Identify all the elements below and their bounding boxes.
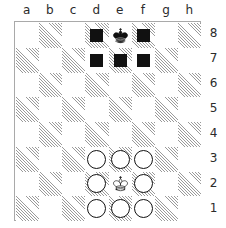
square-e8[interactable]: [109, 23, 132, 48]
square-c6[interactable]: [62, 73, 85, 98]
square-g7[interactable]: [155, 48, 178, 73]
file-label-h: h: [178, 2, 201, 19]
square-h7[interactable]: [178, 48, 201, 73]
rank-label-3: 3: [203, 145, 224, 170]
square-c8[interactable]: [62, 23, 85, 48]
square-h6[interactable]: [178, 73, 201, 98]
black-king-icon: [109, 23, 132, 48]
square-d6[interactable]: [85, 73, 108, 98]
white-circle-marker-icon[interactable]: [111, 150, 130, 169]
white-king-icon: [109, 172, 132, 197]
square-a2[interactable]: [16, 172, 39, 197]
rank-label-6: 6: [203, 71, 224, 96]
file-label-row: abcdefgh: [15, 2, 201, 19]
square-f6[interactable]: [132, 73, 155, 98]
square-d8[interactable]: [85, 23, 108, 48]
square-a7[interactable]: [16, 48, 39, 73]
square-f5[interactable]: [132, 97, 155, 122]
square-d1[interactable]: [85, 196, 108, 221]
square-b8[interactable]: [39, 23, 62, 48]
square-a5[interactable]: [16, 97, 39, 122]
square-e6[interactable]: [109, 73, 132, 98]
rank-label-column: 87654321: [203, 21, 224, 220]
square-g2[interactable]: [155, 172, 178, 197]
square-g3[interactable]: [155, 147, 178, 172]
black-square-marker-icon[interactable]: [137, 54, 150, 67]
square-h2[interactable]: [178, 172, 201, 197]
white-circle-marker-icon[interactable]: [111, 199, 130, 218]
black-square-marker-icon[interactable]: [90, 29, 103, 42]
square-b7[interactable]: [39, 48, 62, 73]
square-d3[interactable]: [85, 147, 108, 172]
rank-label-5: 5: [203, 96, 224, 121]
square-a6[interactable]: [16, 73, 39, 98]
square-g4[interactable]: [155, 122, 178, 147]
square-f7[interactable]: [132, 48, 155, 73]
square-b4[interactable]: [39, 122, 62, 147]
rank-label-7: 7: [203, 46, 224, 71]
square-b5[interactable]: [39, 97, 62, 122]
square-d7[interactable]: [85, 48, 108, 73]
square-b2[interactable]: [39, 172, 62, 197]
square-c7[interactable]: [62, 48, 85, 73]
file-label-b: b: [38, 2, 61, 19]
file-label-d: d: [85, 2, 108, 19]
square-c3[interactable]: [62, 147, 85, 172]
square-a1[interactable]: [16, 196, 39, 221]
black-square-marker-icon[interactable]: [114, 54, 127, 67]
square-c2[interactable]: [62, 172, 85, 197]
square-a8[interactable]: [16, 23, 39, 48]
chess-board[interactable]: [14, 21, 201, 221]
square-g8[interactable]: [155, 23, 178, 48]
square-h5[interactable]: [178, 97, 201, 122]
file-label-e: e: [108, 2, 131, 19]
white-circle-marker-icon[interactable]: [87, 199, 106, 218]
white-circle-marker-icon[interactable]: [134, 150, 153, 169]
black-square-marker-icon[interactable]: [90, 54, 103, 67]
square-e5[interactable]: [109, 97, 132, 122]
square-f8[interactable]: [132, 23, 155, 48]
rank-label-1: 1: [203, 195, 224, 220]
square-e2[interactable]: [109, 172, 132, 197]
square-c5[interactable]: [62, 97, 85, 122]
square-b1[interactable]: [39, 196, 62, 221]
square-c1[interactable]: [62, 196, 85, 221]
square-e4[interactable]: [109, 122, 132, 147]
square-f3[interactable]: [132, 147, 155, 172]
file-label-c: c: [62, 2, 85, 19]
square-b6[interactable]: [39, 73, 62, 98]
file-label-f: f: [131, 2, 154, 19]
rank-label-2: 2: [203, 170, 224, 195]
square-e1[interactable]: [109, 196, 132, 221]
square-g5[interactable]: [155, 97, 178, 122]
file-label-a: a: [15, 2, 38, 19]
square-e7[interactable]: [109, 48, 132, 73]
square-c4[interactable]: [62, 122, 85, 147]
rank-label-4: 4: [203, 121, 224, 146]
square-g6[interactable]: [155, 73, 178, 98]
square-b3[interactable]: [39, 147, 62, 172]
square-g1[interactable]: [155, 196, 178, 221]
square-e3[interactable]: [109, 147, 132, 172]
square-d2[interactable]: [85, 172, 108, 197]
square-f1[interactable]: [132, 196, 155, 221]
square-h1[interactable]: [178, 196, 201, 221]
rank-label-8: 8: [203, 21, 224, 46]
square-d4[interactable]: [85, 122, 108, 147]
square-h3[interactable]: [178, 147, 201, 172]
board-grid: [16, 23, 201, 221]
white-circle-marker-icon[interactable]: [87, 174, 106, 193]
file-label-g: g: [155, 2, 178, 19]
white-circle-marker-icon[interactable]: [134, 199, 153, 218]
white-circle-marker-icon[interactable]: [87, 150, 106, 169]
white-circle-marker-icon[interactable]: [134, 174, 153, 193]
square-h4[interactable]: [178, 122, 201, 147]
square-a4[interactable]: [16, 122, 39, 147]
chess-diagram: abcdefgh 87654321: [0, 0, 226, 228]
square-d5[interactable]: [85, 97, 108, 122]
square-f2[interactable]: [132, 172, 155, 197]
square-a3[interactable]: [16, 147, 39, 172]
black-square-marker-icon[interactable]: [137, 29, 150, 42]
square-h8[interactable]: [178, 23, 201, 48]
square-f4[interactable]: [132, 122, 155, 147]
